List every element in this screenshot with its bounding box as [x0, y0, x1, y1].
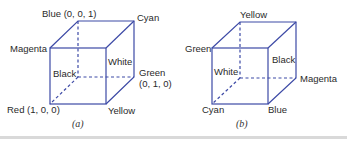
label-blue: Blue (0, 0, 1) — [42, 8, 96, 19]
label-black-b: Black — [272, 54, 295, 65]
label-green-b: Green — [185, 43, 211, 54]
label-white-b: White — [214, 66, 238, 77]
label-green: Green — [139, 67, 165, 78]
label-red: Red (1, 0, 0) — [7, 104, 60, 115]
caption-b: (b) — [236, 118, 248, 129]
caption-a: (a) — [72, 118, 84, 129]
label-magenta-b: Magenta — [300, 73, 337, 84]
label-magenta: Magenta — [10, 43, 47, 54]
label-yellow: Yellow — [108, 105, 135, 116]
label-green-coord: (0, 1, 0) — [139, 78, 172, 89]
label-white: White — [108, 56, 132, 67]
label-cyan-b: Cyan — [202, 104, 224, 115]
label-cyan: Cyan — [137, 12, 159, 23]
caption-divider — [0, 136, 347, 139]
label-blue-b: Blue — [268, 104, 287, 115]
label-yellow-b: Yellow — [240, 9, 267, 20]
label-black: Black — [53, 68, 76, 79]
